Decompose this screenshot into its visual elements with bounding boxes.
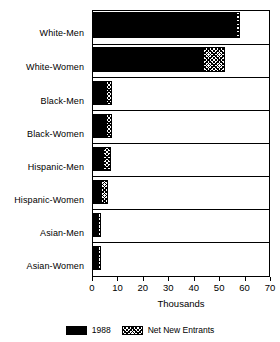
legend-solid-swatch-icon xyxy=(66,326,87,335)
x-axis-tick-label: 20 xyxy=(130,282,156,293)
bar-segment-1988 xyxy=(93,47,204,72)
x-axis-tick xyxy=(194,277,195,281)
x-axis-tick xyxy=(117,277,118,281)
plot-area xyxy=(92,10,270,277)
x-axis-tick xyxy=(219,277,220,281)
y-axis-label-black-men: Black-Men xyxy=(0,96,84,106)
x-axis-title: Thousands xyxy=(92,298,270,309)
y-axis-label-black-women: Black-Women xyxy=(0,129,84,139)
bar-asian-women xyxy=(93,246,101,270)
bar-segment-1988 xyxy=(93,114,107,138)
bar-segment-net-new-entrants xyxy=(99,213,100,237)
bar-segment-net-new-entrants xyxy=(107,81,112,105)
x-axis-tick xyxy=(168,277,169,281)
legend-label-net-new-entrants: Net New Entrants xyxy=(148,325,215,335)
row-divider xyxy=(93,44,269,45)
row-divider xyxy=(93,242,269,243)
bar-segment-1988 xyxy=(93,147,104,171)
bar-segment-net-new-entrants xyxy=(204,47,226,72)
x-axis-tick xyxy=(270,277,271,281)
x-axis-tick-label: 10 xyxy=(104,282,130,293)
bar-asian-men xyxy=(93,213,101,237)
x-axis-tick-label: 40 xyxy=(181,282,207,293)
bar-segment-net-new-entrants xyxy=(237,12,241,38)
legend-item-1988: 1988 xyxy=(66,325,111,335)
x-axis-tick xyxy=(143,277,144,281)
x-axis-tick-label: 0 xyxy=(79,282,105,293)
bar-segment-net-new-entrants xyxy=(107,114,112,138)
bar-segment-net-new-entrants xyxy=(99,246,100,270)
row-divider xyxy=(93,209,269,210)
y-axis-label-asian-women: Asian-Women xyxy=(0,261,84,271)
bar-white-men xyxy=(93,12,240,38)
bar-segment-net-new-entrants xyxy=(102,180,108,204)
y-axis-label-white-men: White-Men xyxy=(0,28,84,38)
x-axis-tick-label: 70 xyxy=(257,282,280,293)
x-axis-tick xyxy=(92,277,93,281)
x-axis-tick-label: 50 xyxy=(206,282,232,293)
bar-white-women xyxy=(93,47,225,72)
bar-hispanic-women xyxy=(93,180,108,204)
legend-item-net-new-entrants: Net New Entrants xyxy=(122,325,215,335)
x-axis-tick-label: 60 xyxy=(232,282,258,293)
chart-legend: 1988 Net New Entrants xyxy=(0,322,280,338)
legend-label-1988: 1988 xyxy=(92,325,111,335)
bar-chart: White-Men White-Women Black-Men Black-Wo… xyxy=(0,0,280,342)
y-axis-label-hispanic-men: Hispanic-Men xyxy=(0,162,84,172)
bar-segment-1988 xyxy=(93,180,102,204)
legend-hatch-swatch-icon xyxy=(122,326,143,335)
x-axis-tick-label: 30 xyxy=(155,282,181,293)
bar-black-men xyxy=(93,81,112,105)
row-divider xyxy=(93,110,269,111)
row-divider xyxy=(93,143,269,144)
row-divider xyxy=(93,176,269,177)
bar-black-women xyxy=(93,114,112,138)
x-axis-tick-labels: 010203040506070 xyxy=(92,282,270,294)
row-divider xyxy=(93,77,269,78)
y-axis-label-white-women: White-Women xyxy=(0,62,84,72)
y-axis-label-hispanic-women: Hispanic-Women xyxy=(0,195,84,205)
bar-segment-1988 xyxy=(93,12,237,38)
bar-segment-1988 xyxy=(93,81,107,105)
y-axis-category-labels: White-Men White-Women Black-Men Black-Wo… xyxy=(0,10,88,277)
x-axis-tick xyxy=(245,277,246,281)
bar-segment-net-new-entrants xyxy=(104,147,110,171)
bar-hispanic-men xyxy=(93,147,111,171)
y-axis-label-asian-men: Asian-Men xyxy=(0,228,84,238)
